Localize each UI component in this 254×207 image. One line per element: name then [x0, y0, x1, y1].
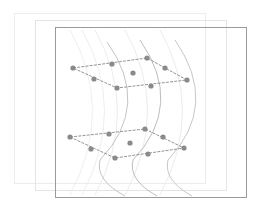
node-dot	[112, 155, 117, 160]
back-frame	[36, 21, 227, 191]
planes	[67, 55, 189, 160]
layered-planes-diagram	[0, 0, 254, 207]
node-dot	[145, 151, 150, 156]
node-dot	[109, 61, 114, 66]
node-dot	[148, 83, 153, 88]
node-dot	[70, 65, 75, 70]
node-dot	[114, 85, 119, 90]
node-dot	[106, 131, 111, 136]
node-dot	[162, 65, 167, 70]
wave-curves	[70, 30, 196, 196]
wave-curve-faint	[95, 30, 118, 195]
upper-plane	[70, 55, 189, 90]
wave-curve-faint	[82, 30, 105, 195]
wave-curve	[167, 40, 196, 196]
wave-curve-faint	[160, 30, 183, 195]
node-dot	[181, 145, 186, 150]
node-dot	[67, 134, 72, 139]
node-dot	[130, 70, 135, 75]
lower-plane	[67, 126, 186, 160]
node-dot	[142, 126, 147, 131]
node-dot	[91, 76, 96, 81]
wave-curve-faint	[125, 30, 148, 195]
node-dot	[160, 134, 165, 139]
front-frame	[56, 28, 247, 198]
node-dot	[144, 55, 149, 60]
diagram-canvas	[0, 0, 254, 207]
node-dot	[88, 146, 93, 151]
wave-curve-faint	[70, 30, 93, 195]
node-dot	[184, 77, 189, 82]
node-dot	[127, 140, 132, 145]
